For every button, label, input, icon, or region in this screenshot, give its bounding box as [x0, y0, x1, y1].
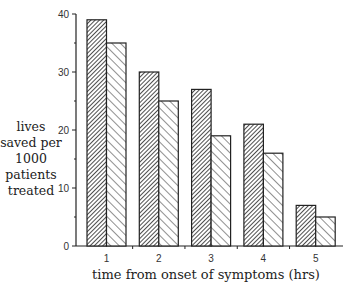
bar [263, 153, 283, 246]
bar [296, 205, 316, 246]
x-tick-label: 5 [313, 253, 319, 264]
x-axis-label: time from onset of symptoms (hrs) [60, 267, 352, 282]
y-tick-label: 30 [58, 67, 70, 78]
x-tick-label: 1 [104, 253, 110, 264]
bar [139, 72, 159, 246]
bar [192, 89, 212, 246]
y-axis-label-line: treated [0, 183, 62, 199]
bar [159, 101, 179, 246]
y-axis-label: livessaved per1000patientstreated [0, 119, 62, 199]
y-axis-label-line: patients [0, 167, 62, 183]
bars [87, 20, 335, 246]
bar [316, 217, 336, 246]
x-tick-label: 2 [156, 253, 162, 264]
y-tick-label: 0 [63, 241, 69, 252]
bar [244, 124, 264, 246]
y-axis-label-line: 1000 [0, 151, 62, 167]
bar [211, 136, 231, 246]
x-tick-label: 3 [208, 253, 214, 264]
bar [87, 20, 107, 246]
y-axis-label-line: saved per [0, 135, 62, 151]
bar [107, 43, 127, 246]
y-axis-label-line: lives [0, 119, 62, 135]
y-tick-label: 40 [58, 9, 70, 20]
x-tick-label: 4 [261, 253, 267, 264]
